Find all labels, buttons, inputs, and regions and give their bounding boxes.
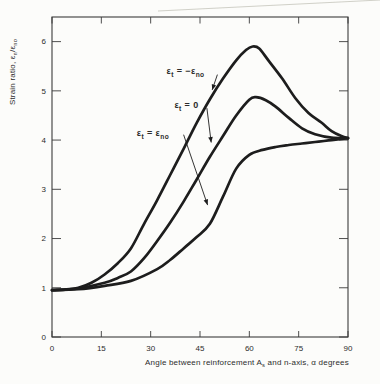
curve-label-et-neg-eno: εt = −εno xyxy=(167,66,205,77)
scan-artifact-line xyxy=(158,0,380,11)
strain-ratio-chart: 01530456075900123456εt = −εnoεt = 0εt = … xyxy=(0,0,380,384)
curve-et-zero xyxy=(52,97,348,290)
curve-label-et-eno: εt = εno xyxy=(137,128,169,139)
y-tick-label: 5 xyxy=(42,87,47,96)
figure-page: 01530456075900123456εt = −εnoεt = 0εt = … xyxy=(0,0,380,384)
arrowhead-et-zero xyxy=(208,137,213,143)
y-tick-label: 3 xyxy=(42,185,47,194)
y-tick-label: 2 xyxy=(42,234,47,243)
y-tick-label: 4 xyxy=(42,136,47,145)
arrowhead-et-eno xyxy=(204,199,208,205)
curve-et-eno xyxy=(52,138,348,290)
x-tick-label: 30 xyxy=(146,344,155,353)
y-axis-label: Strain ratio, εn/εno xyxy=(8,39,18,105)
x-tick-label: 75 xyxy=(294,344,303,353)
x-tick-label: 15 xyxy=(97,344,106,353)
curve-et-neg-eno xyxy=(52,46,348,290)
axis-ticks xyxy=(52,17,348,337)
y-tick-label: 1 xyxy=(42,284,47,293)
x-tick-label: 45 xyxy=(196,344,205,353)
curve-label-et-zero: εt = 0 xyxy=(174,100,198,111)
y-tick-label: 6 xyxy=(42,37,47,46)
plot-frame xyxy=(52,17,348,337)
x-tick-label: 60 xyxy=(245,344,254,353)
x-tick-labels: 0153045607590 xyxy=(50,344,353,353)
y-tick-labels: 0123456 xyxy=(42,37,47,341)
x-tick-label: 0 xyxy=(50,344,55,353)
x-tick-label: 90 xyxy=(344,344,353,353)
x-axis-label: Angle between reinforcement As and n-axi… xyxy=(145,358,349,368)
y-tick-label: 0 xyxy=(42,333,47,342)
